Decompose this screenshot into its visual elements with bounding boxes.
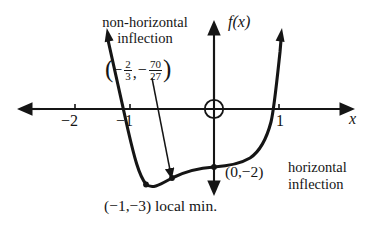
y-axis-label: f(x) [228, 13, 250, 31]
coord-fraction-two-thirds: 2 3 [124, 59, 132, 82]
horizontal-inflection-line2: inflection [288, 176, 347, 193]
horizontal-inflection-annotation: horizontal inflection [288, 159, 347, 192]
fraction-numerator: 2 [124, 59, 132, 70]
coord-close-paren: ) [163, 56, 171, 81]
non-horizontal-inflection-line1: non-horizontal [90, 14, 200, 30]
non-horizontal-inflection-annotation: non-horizontal inflection [90, 14, 200, 46]
fraction-numerator: 70 [149, 59, 162, 70]
x-tick-label-plus1: 1 [276, 112, 284, 130]
horizontal-inflection-coordinate-label: (0,−2) [225, 163, 263, 180]
point-local-min [143, 182, 149, 188]
curve-right-arrowhead [276, 27, 287, 42]
coord-minus-2: − [138, 61, 148, 79]
x-tick-label-minus1: −1 [116, 112, 133, 130]
x-tick-label-minus2: −2 [61, 112, 78, 130]
calculus-graph-figure: non-horizontal inflection f(x) x ( − 2 3… [0, 0, 371, 225]
point-non-horizontal-inflection [169, 175, 175, 181]
horizontal-inflection-line1: horizontal [288, 159, 347, 176]
non-horizontal-inflection-line2: inflection [90, 30, 200, 46]
coord-minus-1: − [113, 61, 123, 79]
fraction-denominator: 3 [124, 70, 132, 82]
inflection-point-coordinate-label: ( − 2 3 , − 70 27 ) [105, 57, 171, 82]
point-horizontal-inflection [211, 164, 217, 170]
inflection-leader-arrow [152, 78, 170, 170]
fraction-denominator: 27 [149, 70, 162, 82]
local-min-annotation: (−1,−3) local min. [104, 197, 217, 214]
coord-fraction-seventy-twentysevenths: 70 27 [149, 59, 162, 82]
coord-comma: , [133, 64, 138, 82]
x-axis-label: x [349, 110, 356, 128]
coord-open-paren: ( [105, 56, 113, 81]
